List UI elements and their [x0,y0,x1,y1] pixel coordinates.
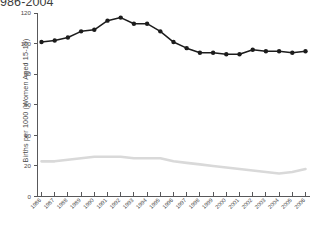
x-tick-label: 1993 [122,197,135,210]
data-point-marker [66,35,70,39]
x-tick-label: 1994 [135,197,148,210]
x-tick-label: 1999 [201,197,214,210]
x-tick-label: 1992 [108,197,121,210]
data-point-marker [119,15,123,19]
data-point-marker [105,18,109,22]
data-point-marker [277,49,281,53]
data-point-marker [290,51,294,55]
data-point-marker [79,29,83,33]
x-tick-label: 1988 [56,197,69,210]
chart-container: 986-2004 Births per 1000 (Women Aged 15-… [0,0,312,228]
x-tick-label: 2000 [214,197,227,210]
y-tick-label: 120 [21,9,32,16]
x-tick-group: 1986198719881989199019911992199319941995… [29,192,306,211]
data-point-marker [39,40,43,44]
x-tick-label: 1991 [95,197,108,210]
series-dark-series [39,15,307,56]
y-tick-label: 40 [24,132,31,139]
x-tick-label: 2006 [293,197,306,210]
x-tick-label: 1995 [148,197,161,210]
x-tick-label: 1998 [188,197,201,210]
data-point-marker [53,38,57,42]
data-point-marker [158,29,162,33]
data-point-marker [237,52,241,56]
dark-series-line [42,18,306,55]
y-tick-label: 0 [28,193,32,200]
y-tick-label: 20 [24,162,31,169]
x-tick-label: 2002 [240,197,253,210]
x-tick-label: 1987 [42,197,55,210]
data-point-marker [264,49,268,53]
y-tick-label: 60 [24,101,31,108]
data-point-marker [211,51,215,55]
x-tick-label: 2003 [254,197,267,210]
x-tick-label: 2005 [280,197,293,210]
y-tick-label: 80 [24,70,31,77]
data-point-marker [198,51,202,55]
x-tick-label: 1996 [161,197,174,210]
data-point-marker [303,49,307,53]
y-tick-label: 100 [21,40,32,47]
data-point-marker [145,22,149,26]
data-point-marker [185,46,189,50]
data-point-marker [224,52,228,56]
y-tick-group: 020406080100120 [21,9,38,200]
data-point-marker [251,48,255,52]
x-tick-label: 1990 [82,197,95,210]
data-point-marker [171,40,175,44]
x-tick-label: 1997 [174,197,187,210]
series-light-series [42,157,306,174]
x-tick-label: 1986 [29,197,42,210]
plot-area: 020406080100120 198619871988198919901991… [0,0,312,228]
x-tick-label: 1989 [69,197,82,210]
x-tick-label: 2004 [267,197,280,210]
data-point-marker [132,22,136,26]
light-series-line [42,157,306,174]
x-tick-label: 2001 [227,197,240,210]
data-point-marker [92,28,96,32]
